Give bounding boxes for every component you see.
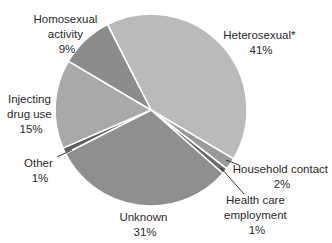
- label-injecting: Injecting drug use 15%: [7, 93, 55, 135]
- label-healthcare: Health care employment 1%: [224, 194, 290, 236]
- label-other: Other 1%: [24, 157, 56, 184]
- pie-chart: Heterosexual* 41% Homosexual activity 9%…: [0, 0, 332, 243]
- label-unknown: Unknown 31%: [119, 211, 170, 238]
- pie-slices: [55, 14, 247, 206]
- label-household: Household contact 2%: [233, 163, 331, 190]
- label-heterosexual: Heterosexual* 41%: [223, 29, 298, 56]
